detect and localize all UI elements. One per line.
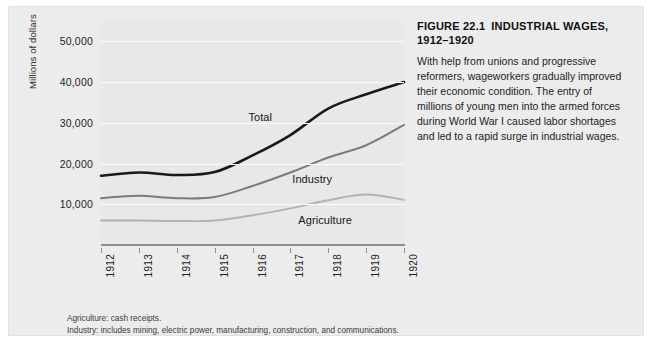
figure-caption-text: With help from unions and progressive re… xyxy=(417,54,625,143)
x-tick-label: 1916 xyxy=(257,254,268,277)
x-tick-mark xyxy=(404,248,405,253)
x-tick-label: 1915 xyxy=(219,254,230,277)
x-tick-mark xyxy=(139,248,140,253)
series-line-agriculture xyxy=(101,194,404,221)
gridline xyxy=(101,41,404,42)
x-tick-label: 1919 xyxy=(370,254,381,277)
x-tick-label: 1918 xyxy=(332,254,343,277)
series-label-industry: Industry xyxy=(292,173,332,185)
series-lines xyxy=(101,21,404,245)
series-line-total xyxy=(101,82,404,176)
chart-region: Millions of dollars 10,00020,00030,00040… xyxy=(9,7,409,337)
plot-area xyxy=(101,21,404,245)
y-tick-label: 30,000 xyxy=(31,117,93,129)
x-tick-mark xyxy=(328,248,329,253)
series-label-agriculture: Agriculture xyxy=(298,214,352,226)
gridline xyxy=(101,204,404,205)
figure-panel: Millions of dollars 10,00020,00030,00040… xyxy=(8,6,644,336)
y-tick-label: 10,000 xyxy=(31,198,93,210)
x-tick-mark xyxy=(177,248,178,253)
series-line-industry xyxy=(101,125,404,199)
footnotes: Agriculture: cash receipts. Industry: in… xyxy=(67,313,487,337)
x-tick-mark xyxy=(253,248,254,253)
x-tick-label: 1917 xyxy=(294,254,305,277)
x-tick-label: 1914 xyxy=(181,254,192,277)
x-tick-mark xyxy=(366,248,367,253)
x-tick-label: 1912 xyxy=(105,254,116,277)
footnote-agriculture: Agriculture: cash receipts. xyxy=(67,313,487,325)
x-tick-mark xyxy=(290,248,291,253)
x-tick-label: 1920 xyxy=(408,254,419,277)
gridline xyxy=(101,82,404,83)
y-tick-label: 50,000 xyxy=(31,35,93,47)
y-axis-tick-labels: 10,00020,00030,00040,00050,000 xyxy=(31,7,93,337)
y-tick-label: 40,000 xyxy=(31,76,93,88)
x-axis-line xyxy=(101,244,405,246)
caption-region: FIGURE 22.1 INDUSTRIAL WAGES, 1912–1920 … xyxy=(417,19,625,144)
y-tick-label: 20,000 xyxy=(31,158,93,170)
figure-title: FIGURE 22.1 INDUSTRIAL WAGES, 1912–1920 xyxy=(417,19,625,47)
x-tick-label: 1913 xyxy=(143,254,154,277)
series-label-total: Total xyxy=(248,111,272,123)
x-tick-mark xyxy=(101,248,102,253)
figure-number: FIGURE 22.1 xyxy=(417,20,485,32)
gridline xyxy=(101,164,404,165)
x-tick-mark xyxy=(215,248,216,253)
footnote-industry: Industry: includes mining, electric powe… xyxy=(67,325,487,337)
